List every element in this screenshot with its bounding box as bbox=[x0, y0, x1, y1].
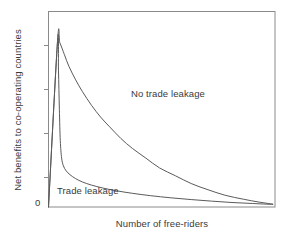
annotation-no-trade-leakage: No trade leakage bbox=[131, 88, 205, 99]
annotation-trade-leakage: Trade leakage bbox=[57, 185, 119, 196]
plot-frame bbox=[49, 12, 276, 208]
y-axis-label: Net benefits to co-operating countries bbox=[12, 12, 26, 208]
x-axis-label: Number of free-riders bbox=[48, 218, 276, 229]
y-axis-tick-label-zero: 0 bbox=[35, 197, 40, 208]
chart-figure: Net benefits to co-operating countries N… bbox=[0, 0, 288, 234]
plot-canvas bbox=[0, 0, 288, 234]
y-axis-ticks bbox=[44, 46, 49, 178]
